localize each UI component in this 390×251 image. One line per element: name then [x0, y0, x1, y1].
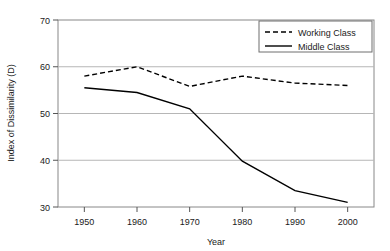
- x-axis-label: Year: [207, 237, 225, 247]
- x-tick-label: 1990: [285, 217, 305, 227]
- x-tick-label: 1980: [232, 217, 252, 227]
- x-tick-label: 2000: [338, 217, 358, 227]
- y-tick-label: 50: [40, 109, 50, 119]
- y-tick-label: 40: [40, 156, 50, 166]
- x-tick-label: 1960: [127, 217, 147, 227]
- x-tick-label: 1970: [180, 217, 200, 227]
- y-tick-label: 70: [40, 16, 50, 26]
- y-tick-label: 60: [40, 62, 50, 72]
- legend-label: Middle Class: [298, 42, 350, 52]
- y-axis-ticks: 3040506070: [40, 16, 58, 213]
- chart-figure: 3040506070 195019601970198019902000 Inde…: [0, 0, 390, 251]
- x-tick-label: 1950: [74, 217, 94, 227]
- chart-canvas: 3040506070 195019601970198019902000 Inde…: [0, 0, 390, 251]
- y-tick-label: 30: [40, 203, 50, 213]
- y-axis-label: Index of Dissimilarity (D): [6, 64, 16, 162]
- legend-label: Working Class: [298, 28, 356, 38]
- x-axis-ticks: 195019601970198019902000: [74, 207, 357, 227]
- chart-legend: Working ClassMiddle Class: [259, 21, 372, 52]
